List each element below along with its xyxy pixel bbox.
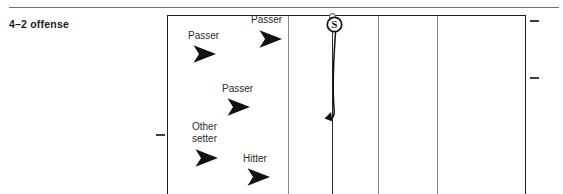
figure-caption: 4–2 offense [9, 18, 69, 30]
player-arrowhead-icon [194, 148, 220, 168]
setter-token-label: S [332, 19, 338, 30]
player-label: Passer [251, 14, 282, 26]
court-divider-line-3 [437, 16, 438, 194]
setter-token-icon: S [326, 16, 343, 33]
setter-movement-path [312, 22, 356, 130]
sideline-tick-left-icon [156, 134, 165, 136]
player-arrowhead-icon [192, 44, 218, 64]
player-label: Passer [222, 83, 253, 95]
player-label-line-2: setter [192, 133, 217, 145]
court-divider-line-2 [378, 16, 379, 194]
court-divider-line-1 [288, 16, 289, 194]
player-label: Passer [188, 30, 219, 42]
player-label-line-1: Other [192, 121, 217, 133]
antenna-tick-right-top-icon [530, 20, 539, 22]
player-arrowhead-icon [258, 29, 284, 49]
antenna-tick-right-mid-icon [530, 77, 539, 79]
player-arrowhead-icon [226, 97, 252, 117]
player-arrowhead-icon [246, 167, 272, 187]
header-rule [9, 7, 559, 8]
figure-page: 4–2 offense Passer Passer Passer Other s… [0, 0, 563, 194]
player-label: Hitter [243, 153, 267, 165]
